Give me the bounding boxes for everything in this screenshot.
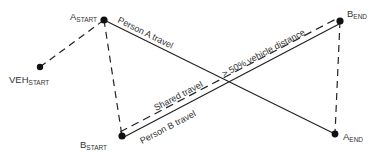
label-person-a-travel: Person A travel: [116, 15, 175, 51]
node-a-end: [332, 131, 339, 138]
label-vehicle-distance-condition: > 50% vehicle distance: [220, 27, 306, 79]
label-b-start: BSTART: [80, 139, 107, 151]
edge-veh-to-a-start: [40, 20, 104, 67]
label-b-end: BEND: [347, 8, 367, 20]
edge-a-start-to-b-start: [104, 20, 122, 136]
node-b-start: [118, 132, 125, 139]
edge-b-end-to-a-end: [335, 21, 340, 134]
label-a-start: ASTART: [70, 11, 97, 23]
label-shared-travel: Shared travel: [152, 79, 204, 113]
label-a-end: AEND: [343, 131, 363, 143]
node-b-end: [336, 17, 343, 24]
node-a-start: [100, 16, 107, 23]
label-veh-start: VEHSTART: [9, 74, 49, 86]
node-veh-start: [37, 64, 43, 70]
ridesharing-diagram: ASTART VEHSTART BEND BSTART AEND Person …: [0, 0, 388, 156]
